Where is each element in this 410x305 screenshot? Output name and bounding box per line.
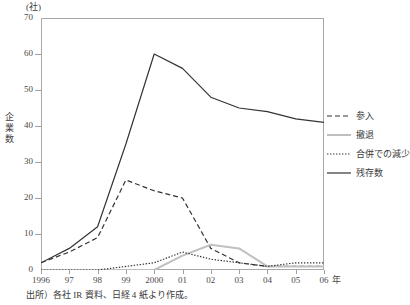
legend-label: 参入	[356, 111, 374, 121]
legend-swatch-icon	[327, 111, 351, 121]
legend-swatch-icon	[327, 130, 351, 140]
y-tick-label: 30	[11, 157, 33, 166]
legend-swatch-icon	[327, 168, 351, 178]
y-tick-label: 0	[11, 265, 33, 274]
series-line	[41, 54, 324, 263]
x-tick-label: 97	[54, 276, 84, 285]
chart-legend: 参入撤退合併での減少残存数	[327, 106, 407, 182]
y-tick-label: 40	[11, 121, 33, 130]
y-tick-label: 60	[11, 49, 33, 58]
x-tick-label: 02	[196, 276, 226, 285]
x-tick-label: 05	[281, 276, 311, 285]
x-tick-label: 99	[111, 276, 141, 285]
x-tick-label: 04	[252, 276, 282, 285]
x-tick-mark	[324, 270, 325, 274]
series-line	[41, 180, 324, 266]
y-tick-label: 70	[11, 13, 33, 22]
x-tick-label: 1996	[26, 276, 56, 285]
x-tick-mark	[69, 270, 70, 274]
x-tick-label: 01	[168, 276, 198, 285]
legend-label: 合併での減少	[356, 149, 410, 159]
legend-item[interactable]: 撤退	[327, 125, 407, 144]
legend-item[interactable]: 残存数	[327, 163, 407, 182]
x-tick-mark	[267, 270, 268, 274]
x-tick-label: 98	[83, 276, 113, 285]
x-tick-mark	[296, 270, 297, 274]
y-tick-label: 50	[11, 85, 33, 94]
x-tick-mark	[154, 270, 155, 274]
legend-label: 残存数	[356, 168, 383, 178]
legend-item[interactable]: 参入	[327, 106, 407, 125]
x-axis-unit-label: 年	[332, 276, 341, 285]
legend-swatch-icon	[327, 149, 351, 159]
source-note: 出所）各社 IR 資料、日経 4 紙より作成。	[26, 290, 193, 301]
y-tick-label: 20	[11, 193, 33, 202]
y-tick-label: 10	[11, 229, 33, 238]
x-tick-label: 2000	[139, 276, 169, 285]
legend-item[interactable]: 合併での減少	[327, 144, 407, 163]
series-plot	[41, 18, 324, 270]
x-tick-label: 03	[224, 276, 254, 285]
x-tick-mark	[98, 270, 99, 274]
x-tick-mark	[183, 270, 184, 274]
series-line	[41, 245, 324, 270]
x-tick-mark	[239, 270, 240, 274]
y-axis-title-char-3: 数	[3, 134, 16, 145]
legend-label: 撤退	[356, 130, 374, 140]
x-tick-mark	[126, 270, 127, 274]
x-tick-mark	[211, 270, 212, 274]
x-tick-mark	[41, 270, 42, 274]
